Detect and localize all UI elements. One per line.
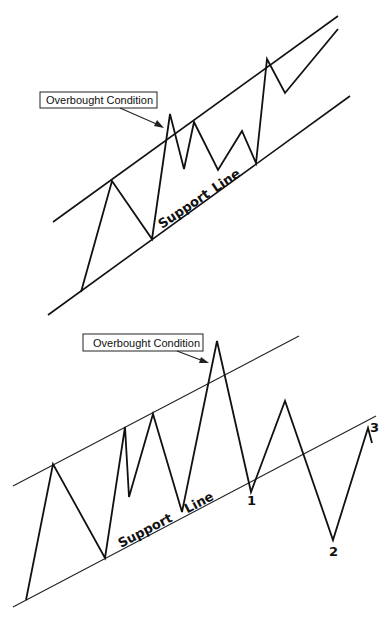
top-line-word: Line bbox=[209, 165, 243, 195]
bottom-support-label: SupportLine bbox=[115, 489, 216, 551]
point-label-1: 1 bbox=[247, 493, 256, 508]
svg-text:SupportLine: SupportLine bbox=[115, 489, 216, 551]
point-label-3: 3 bbox=[370, 420, 379, 435]
bottom-upper-channel-line bbox=[13, 336, 299, 486]
top-overbought-callout: Overbought Condition bbox=[40, 92, 164, 128]
bottom-line-word: Line bbox=[182, 489, 216, 517]
bottom-price-path bbox=[26, 341, 372, 600]
bottom-support-word: Support bbox=[115, 510, 174, 550]
bottom-channel-diagram: Overbought Condition SupportLine 1 2 3 bbox=[13, 334, 379, 607]
top-price-path bbox=[81, 29, 338, 292]
svg-text:SupportLine: SupportLine bbox=[155, 165, 243, 231]
top-support-label: SupportLine bbox=[155, 165, 243, 231]
top-callout-label: Overbought Condition bbox=[46, 94, 153, 106]
point-label-2: 2 bbox=[329, 544, 338, 559]
top-support-word: Support bbox=[155, 186, 212, 231]
trend-channel-diagram: Overbought Condition SupportLine Overbou… bbox=[0, 0, 391, 619]
top-callout-arrow bbox=[120, 108, 161, 126]
bottom-arrowhead-icon bbox=[199, 357, 209, 363]
bottom-overbought-callout: Overbought Condition bbox=[83, 334, 209, 363]
bottom-callout-label: Overbought Condition bbox=[93, 337, 200, 349]
top-channel-diagram: Overbought Condition SupportLine bbox=[40, 16, 350, 315]
top-arrowhead-icon bbox=[154, 120, 164, 128]
